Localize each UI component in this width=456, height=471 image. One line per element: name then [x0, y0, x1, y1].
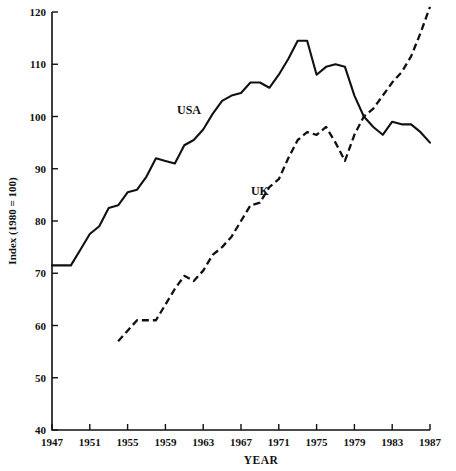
x-tick-label: 1975 — [306, 436, 329, 448]
x-tick-label: 1947 — [41, 436, 64, 448]
y-tick-label: 120 — [30, 6, 47, 18]
y-tick-label: 100 — [30, 111, 47, 123]
x-tick-label: 1983 — [381, 436, 404, 448]
x-tick-label: 1955 — [117, 436, 140, 448]
y-tick-label: 80 — [35, 215, 47, 227]
series-line-uk — [118, 7, 430, 341]
y-tick-label: 90 — [35, 163, 47, 175]
line-chart: 4050607080901001101201947195119551959196… — [0, 0, 456, 471]
data-series — [52, 7, 430, 341]
x-axis-title: YEAR — [244, 454, 279, 466]
chart-container: 4050607080901001101201947195119551959196… — [0, 0, 456, 471]
y-tick-label: 40 — [35, 424, 47, 436]
series-line-usa — [52, 41, 430, 266]
y-axis-title: Index (1980 = 100) — [6, 177, 19, 265]
series-annotations: USAUK — [177, 103, 270, 198]
x-tick-label: 1967 — [230, 436, 253, 448]
y-tick-label: 70 — [35, 267, 47, 279]
x-tick-label: 1987 — [419, 436, 442, 448]
x-tick-label: 1971 — [268, 436, 290, 448]
x-tick-label: 1959 — [154, 436, 177, 448]
y-tick-label: 50 — [35, 372, 47, 384]
axis-titles: YEARIndex (1980 = 100) — [6, 177, 278, 466]
axis-tick-labels: 4050607080901001101201947195119551959196… — [30, 6, 442, 448]
x-tick-label: 1979 — [343, 436, 366, 448]
annotation-uk: UK — [251, 184, 270, 198]
y-tick-label: 60 — [35, 320, 47, 332]
annotation-usa: USA — [177, 103, 201, 117]
y-tick-label: 110 — [30, 58, 46, 70]
x-tick-label: 1951 — [79, 436, 101, 448]
x-tick-label: 1963 — [192, 436, 215, 448]
